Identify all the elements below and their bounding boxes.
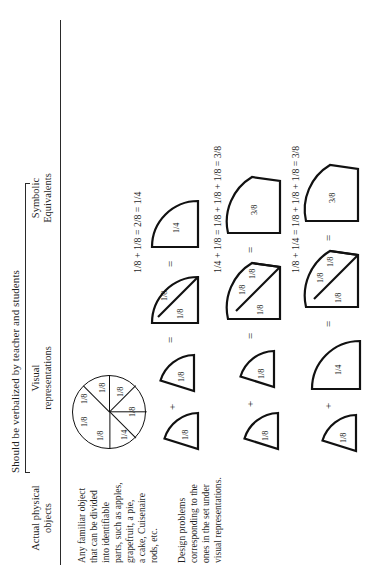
circle-sector-label-1: 1/8	[80, 394, 89, 404]
wedge-label-3: 1/8	[326, 257, 335, 267]
plus-sign-row3: +	[244, 401, 256, 407]
equals-sign-row4-b: =	[322, 235, 334, 241]
figure-row3-addend-1: 1/8	[236, 411, 280, 455]
circle-sector-label-4: 1/8	[128, 407, 137, 417]
equals-sign-row4-a: =	[322, 321, 334, 327]
wedge-label: 1/8	[257, 369, 266, 379]
spoke-0	[109, 375, 110, 412]
actual-paragraph-1-line-3: into identifiable	[100, 502, 112, 563]
figure-row3-result: 3/8	[222, 173, 288, 239]
equals-sign-row2-b: =	[164, 261, 176, 267]
wedge-label: 1/8	[261, 431, 270, 441]
wedge-label: 1/8	[339, 433, 348, 443]
circle-sector-label-5: 1/8	[80, 417, 89, 427]
wedge-shape	[146, 269, 206, 329]
wedge-label-1: 1/8	[176, 309, 185, 319]
wedge-shape	[300, 155, 366, 227]
actual-paragraph-2-line-4: visual representations.	[212, 477, 224, 563]
column-head-symbolic-line1: Symbolic	[30, 123, 42, 273]
figure-row4-combined: 1/8 1/8 1/8	[300, 247, 366, 313]
header-bracket-left-tick	[25, 472, 30, 473]
wedge-shape	[300, 241, 366, 313]
wedge-label: 1/8	[177, 372, 186, 382]
figure-row2-addend-1: 1/8	[158, 413, 198, 453]
wedge-label-1: 1/8	[256, 305, 265, 315]
figure-row2-result: 1/4	[146, 197, 202, 253]
figure-row4-result: 3/8	[300, 161, 366, 227]
actual-paragraph-2-line-3: ones in the set under	[200, 484, 212, 563]
circle-sector-label-2: 1/8	[98, 383, 107, 393]
wedge-shape	[152, 349, 200, 397]
actual-paragraph-1-line-4: parts, such as apples,	[112, 482, 124, 563]
figure-row3-combined: 1/8 1/8 1/8	[222, 259, 288, 325]
equals-sign-row3-b: =	[244, 247, 256, 253]
actual-paragraph-2-line-1: Design problems	[176, 498, 188, 563]
actual-paragraph-2-line-2: corresponding to the	[188, 484, 200, 563]
wedge-shape	[222, 167, 294, 239]
wedge-label: 1/4	[334, 365, 343, 375]
actual-paragraph-1-line-1: Any familiar object	[76, 488, 88, 563]
column-head-actual-line1: Actual physical	[30, 475, 42, 561]
actual-paragraph-1-line-5: grapefruit, a pie,	[124, 500, 136, 563]
wedge-shape	[236, 407, 284, 455]
wedge-shape	[158, 409, 202, 453]
column-head-actual-line2: objects	[42, 475, 54, 561]
actual-paragraph-1-line-6: a cake, Cuisenaire	[136, 493, 148, 563]
equals-sign-row3-a: =	[244, 333, 256, 339]
wedge-label: 1/4	[172, 223, 181, 233]
spoke-180	[109, 412, 110, 449]
figure-whole-circle: 1/8 1/8 1/8 1/8 1/8 1/8 1/4	[72, 375, 146, 449]
actual-paragraph-1-line-2: that can be divided	[88, 490, 100, 563]
plus-sign-row2: +	[166, 404, 178, 410]
figure-row2-combined: 1/8 1/8	[146, 273, 202, 329]
circle-sector-label-7: 1/4	[120, 430, 129, 440]
wedge-label: 3/8	[250, 205, 259, 215]
actual-paragraph-1-line-7: rods, etc.	[148, 528, 160, 563]
figure-row3-addend-2: 1/8	[232, 349, 276, 393]
figure-row4-addend-2: 1/4	[306, 337, 364, 395]
wedge-label: 1/8	[181, 430, 190, 440]
circle-sector-label-6: 1/8	[96, 431, 105, 441]
figure-row2-addend-2: 1/8	[152, 353, 196, 397]
column-head-symbolic-line2: Equivalents	[42, 123, 54, 273]
figure-row4-addend-1: 1/8	[314, 413, 358, 457]
wedge-shape	[232, 345, 280, 393]
wedge-label-2: 1/8	[316, 273, 325, 283]
wedge-label-1: 1/8	[334, 293, 343, 303]
wedge-label-3: 1/8	[248, 269, 257, 279]
wedge-label-2: 1/8	[238, 285, 247, 295]
equals-sign-row2-a: =	[164, 337, 176, 343]
wedge-label: 3/8	[328, 193, 337, 203]
wedge-shape	[314, 409, 362, 457]
spanning-header: Should be verbalized by teacher and stud…	[9, 270, 21, 473]
header-bracket-top	[25, 183, 26, 473]
equation-row-2: 1/8 + 1/8 = 2/8 = 1/4	[132, 192, 143, 273]
wedge-label-2: 1/8	[160, 291, 169, 301]
column-head-visual-line2: representations	[42, 303, 54, 453]
column-head-visual-line1: Visual	[30, 303, 42, 453]
circle-sector-label-3: 1/8	[116, 387, 125, 397]
plus-sign-row4: +	[322, 403, 334, 409]
header-bottom-rule	[60, 20, 61, 565]
